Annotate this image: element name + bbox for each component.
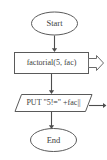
node-start[interactable]: Start [32, 12, 78, 35]
node-end[interactable]: End [31, 129, 77, 152]
process-label: factorial(5, fac) [27, 58, 77, 67]
flowchart-svg: Start factorial(5, fac) PUT "5!=" +fac||… [0, 0, 107, 160]
flowchart-canvas: Start factorial(5, fac) PUT "5!=" +fac||… [0, 0, 107, 160]
start-label: Start [46, 18, 63, 28]
node-call-factorial[interactable]: factorial(5, fac) [15, 53, 89, 74]
node-put-output[interactable]: PUT "5!=" +fac|| [15, 95, 92, 112]
output-label: PUT "5!=" +fac|| [26, 98, 80, 107]
process-chevron-icon [89, 56, 104, 71]
end-label: End [47, 135, 61, 145]
